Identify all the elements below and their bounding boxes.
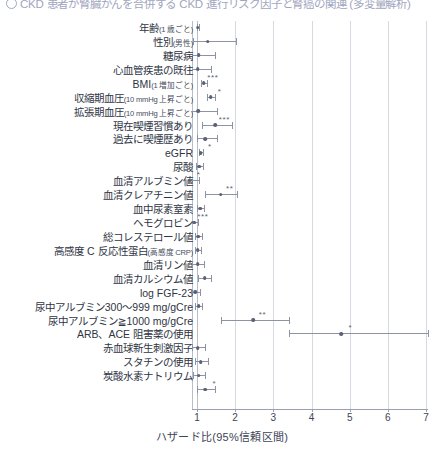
ci-cap-lower	[205, 191, 206, 198]
row-label: 尿酸	[173, 160, 193, 174]
row-label: 尿中アルブミン300〜999 mg/gCre	[35, 300, 193, 314]
ci-cap-lower	[207, 94, 208, 101]
forest-row: 血清アルブミン値*	[0, 174, 444, 188]
significance-marker: ***	[207, 73, 218, 82]
hazard-ratio-point	[206, 40, 210, 44]
ci-cap-upper	[217, 135, 218, 142]
row-label-main: BMI	[133, 78, 152, 90]
row-label: 血清アルブミン値	[113, 174, 193, 188]
ci-cap-upper	[204, 205, 205, 212]
figure-title-strip: CKD 患者が腎臓がんを合併する CKD 進行リスク因子と腎癌の関連 (多変量解…	[0, 0, 444, 14]
forest-row: 総コレステロール値	[0, 230, 444, 244]
hazard-ratio-point	[196, 346, 200, 350]
confidence-interval	[192, 180, 199, 181]
tick-label-2: 2	[232, 412, 238, 423]
forest-row: 糖尿病	[0, 49, 444, 63]
ci-cap-lower	[192, 344, 193, 351]
row-label-main: 血清リン値	[143, 259, 193, 271]
significance-marker: ***	[219, 115, 230, 124]
significance-marker: **	[259, 310, 266, 319]
row-label-main: 血清アルブミン値	[113, 175, 193, 187]
row-label-unit: (高感度 CRP)	[148, 248, 193, 257]
row-label-main: 血清カルシウム値	[113, 273, 193, 285]
tick-label-6: 6	[385, 412, 391, 423]
forest-row: *	[0, 383, 444, 397]
row-label-main: 過去に喫煙歴あり	[113, 133, 193, 145]
significance-marker: *	[213, 379, 217, 388]
hazard-ratio-point	[196, 26, 200, 30]
ci-cap-upper	[237, 191, 238, 198]
forest-row: 炭酸水素ナトリウム	[0, 369, 444, 383]
row-label: 血清リン値	[143, 258, 193, 272]
tick-label-1: 1	[194, 412, 200, 423]
row-label-main: 尿酸	[173, 161, 193, 173]
row-label: ARB、ACE 阻害薬の使用	[77, 327, 193, 341]
ci-cap-upper	[215, 52, 216, 59]
confidence-interval	[289, 333, 428, 334]
row-label-main: 心血管疾患の既往	[113, 64, 193, 76]
ci-cap-lower	[193, 38, 194, 45]
forest-row: スタチンの使用	[0, 355, 444, 369]
x-axis-line	[192, 409, 428, 410]
forest-row: 高感度 C 反応性蛋白(高感度 CRP)	[0, 244, 444, 258]
confidence-interval	[192, 69, 211, 70]
hazard-ratio-point	[213, 123, 217, 127]
circled-number-icon	[6, 0, 17, 9]
hazard-ratio-point	[198, 207, 202, 211]
forest-row: 赤血球新生刺激因子	[0, 341, 444, 355]
ci-cap-upper	[203, 163, 204, 170]
significance-marker: **	[226, 184, 233, 193]
row-label: 血清カルシウム値	[113, 272, 193, 286]
ci-cap-upper	[232, 122, 233, 129]
forest-row: 性別(男性)	[0, 35, 444, 49]
row-label-main: スタチンの使用	[123, 356, 193, 368]
forest-row: 現在喫煙習慣あり***	[0, 119, 444, 133]
row-label-main: 性別	[153, 36, 173, 48]
row-label-main: 年齢	[139, 22, 159, 34]
row-label-main: 収縮期血圧	[74, 92, 124, 104]
hazard-ratio-point	[197, 53, 201, 57]
row-label-main: 炭酸水素ナトリウム	[103, 370, 193, 382]
row-label: 糖尿病	[163, 49, 193, 63]
ci-cap-lower	[193, 372, 194, 379]
ci-cap-lower	[198, 275, 199, 282]
row-label: 過去に喫煙歴あり	[113, 132, 193, 146]
forest-row: BMI(1 増加ごと)***	[0, 77, 444, 91]
row-label-main: log FGF-23	[140, 287, 193, 299]
row-label-unit: (1 歳ごと)	[159, 25, 193, 34]
row-label-main: ヘモグロビン	[133, 217, 193, 229]
row-label-main: ARB、ACE 阻害薬の使用	[77, 328, 193, 340]
forest-row: 心血管疾患の既往	[0, 63, 444, 77]
hazard-ratio-point	[219, 193, 223, 197]
tick-label-3: 3	[271, 412, 277, 423]
forest-row: 尿中アルブミン≧1000 mg/gCre**	[0, 314, 444, 328]
ci-cap-lower	[289, 330, 290, 337]
forest-row: ARB、ACE 阻害薬の使用*	[0, 327, 444, 341]
significance-marker: *	[348, 323, 352, 332]
row-label-main: 赤血球新生刺激因子	[103, 342, 193, 354]
hazard-ratio-point	[209, 95, 213, 99]
row-label: 尿中アルブミン≧1000 mg/gCre	[48, 314, 193, 328]
ci-cap-upper	[215, 94, 216, 101]
ci-cap-upper	[236, 38, 237, 45]
figure-title-text: CKD 患者が腎臓がんを合併する CKD 進行リスク因子と腎癌の関連 (多変量解…	[20, 0, 411, 10]
row-label: 心血管疾患の既往	[113, 63, 193, 77]
hazard-ratio-point	[196, 109, 200, 113]
hazard-ratio-point	[252, 318, 256, 322]
forest-row: 尿中アルブミン300〜999 mg/gCre	[0, 300, 444, 314]
row-label: ヘモグロビン	[133, 216, 193, 230]
row-label: スタチンの使用	[123, 355, 193, 369]
ci-cap-upper	[202, 303, 203, 310]
row-label-unit: (男性)	[173, 39, 193, 48]
ci-cap-upper	[203, 149, 204, 156]
hazard-ratio-point	[193, 290, 197, 294]
forest-row: eGFR*	[0, 146, 444, 160]
hazard-ratio-point	[202, 81, 206, 85]
ci-cap-upper	[202, 233, 203, 240]
row-label: 現在喫煙習慣あり	[113, 119, 193, 133]
hazard-ratio-point	[196, 67, 200, 71]
ci-cap-upper	[428, 330, 429, 337]
ci-cap-upper	[211, 66, 212, 73]
row-label-unit: (10 mmHg 上昇ごと)	[124, 95, 193, 104]
hazard-ratio-point	[340, 332, 344, 336]
